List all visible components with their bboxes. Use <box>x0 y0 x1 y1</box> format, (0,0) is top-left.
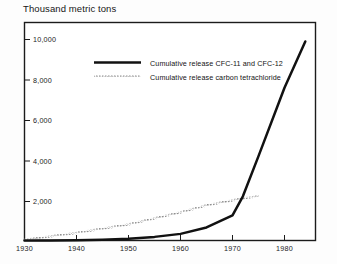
plot-area: 10,000 8,000 6,000 4,000 2,000 1930 1940… <box>0 0 337 264</box>
y-tick-label-10000: 10,000 <box>33 35 56 44</box>
y-tick-label-8000: 8,000 <box>33 76 52 85</box>
y-tick-label-6000: 6,000 <box>33 116 52 125</box>
x-tick-label-1930: 1930 <box>16 244 33 253</box>
x-tick-label-1950: 1950 <box>120 244 137 253</box>
x-tick-label-1960: 1960 <box>172 244 189 253</box>
legend-label-carbon-tetrachloride: Cumulative release carbon tetrachloride <box>150 73 281 82</box>
legend-label-cfc: Cumulative release CFC-11 and CFC-12 <box>150 59 283 68</box>
x-tick-label-1980: 1980 <box>276 244 293 253</box>
plot-frame <box>25 23 316 241</box>
y-tick-label-2000: 2,000 <box>33 197 52 206</box>
chart-figure: Thousand metric tons 10,000 8,000 6,000 … <box>0 0 337 264</box>
x-tick-label-1970: 1970 <box>224 244 241 253</box>
y-tick-label-4000: 4,000 <box>33 157 52 166</box>
x-tick-label-1940: 1940 <box>68 244 85 253</box>
